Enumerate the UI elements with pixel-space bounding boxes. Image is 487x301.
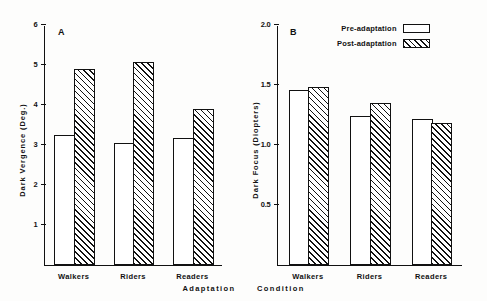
y-tick-label-b-0: 0.5	[261, 200, 271, 209]
bar-b-walkers-pre-adaptation	[289, 90, 310, 265]
legend-swatch-hatched-rectangle-icon	[403, 39, 430, 48]
y-tick-label-a-2: 3	[34, 140, 38, 149]
x-axis-label-a-riders: Riders	[120, 272, 146, 281]
bar-a-readers-post-adaptation	[193, 109, 214, 265]
y-tick-label-a-0: 1	[34, 220, 38, 229]
bar-a-riders-post-adaptation	[133, 62, 154, 265]
figure-canvas: A Dark Vergence (Deg.) 123456 WalkersRid…	[0, 0, 487, 301]
y-tick-label-b-2: 1.5	[261, 80, 271, 89]
bar-group-b-riders	[340, 26, 402, 265]
y-axis-title-b: Dark Focus (Diopters)	[251, 101, 260, 198]
bar-group-b-walkers	[278, 26, 340, 265]
y-tick-label-a-5: 6	[34, 20, 38, 29]
y-tick-label-b-3: 2.0	[261, 20, 271, 29]
legend-item-post-adaptation: Post-adaptation	[337, 37, 430, 50]
bar-group-a-readers	[164, 26, 223, 265]
bar-b-readers-pre-adaptation	[412, 119, 433, 265]
legend-label-pre-adaptation: Pre-adaptation	[341, 24, 396, 33]
x-axis-label-b-walkers: Walkers	[292, 272, 323, 281]
y-tick-label-b-1: 1.0	[261, 140, 271, 149]
chart-legend: Pre-adaptation Post-adaptation	[337, 22, 430, 52]
legend-item-pre-adaptation: Pre-adaptation	[337, 22, 430, 35]
bar-group-a-riders	[104, 26, 163, 265]
bar-group-a-walkers	[45, 26, 104, 265]
x-axis-label-b-riders: Riders	[357, 272, 383, 281]
axis-caption-adaptation: Adaptation	[182, 284, 235, 293]
bar-group-b-readers	[401, 26, 463, 265]
chart-panel-a: A Dark Vergence (Deg.) 123456 WalkersRid…	[0, 0, 244, 301]
bar-group-container-a	[45, 26, 222, 265]
legend-label-post-adaptation: Post-adaptation	[337, 39, 397, 48]
bar-b-riders-pre-adaptation	[350, 116, 371, 265]
y-tick-label-a-1: 2	[34, 180, 38, 189]
bar-a-walkers-post-adaptation	[74, 69, 95, 265]
plot-area-a: 123456	[44, 26, 222, 266]
bar-b-readers-post-adaptation	[431, 123, 452, 265]
bar-b-walkers-post-adaptation	[308, 87, 329, 265]
y-tick-b-3: 2.0	[274, 24, 279, 25]
bar-a-riders-pre-adaptation	[114, 143, 135, 265]
shared-x-axis-caption: Adaptation Condition	[0, 284, 487, 293]
bar-a-walkers-pre-adaptation	[54, 135, 75, 265]
bar-a-readers-pre-adaptation	[173, 138, 194, 265]
x-axis-label-a-readers: Readers	[176, 272, 208, 281]
bar-group-container-b	[278, 26, 462, 265]
legend-swatch-open-rectangle-icon	[403, 24, 430, 33]
axis-caption-condition: Condition	[257, 284, 305, 293]
y-axis-title-a: Dark Vergence (Deg.)	[18, 103, 27, 196]
y-tick-label-a-3: 4	[34, 100, 38, 109]
x-axis-label-b-readers: Readers	[415, 272, 447, 281]
y-tick-a-5: 6	[41, 24, 46, 25]
plot-area-b: 0.51.01.52.0	[277, 26, 462, 266]
x-axis-label-a-walkers: Walkers	[58, 272, 89, 281]
bar-b-riders-post-adaptation	[370, 103, 391, 265]
y-tick-label-a-4: 5	[34, 60, 38, 69]
